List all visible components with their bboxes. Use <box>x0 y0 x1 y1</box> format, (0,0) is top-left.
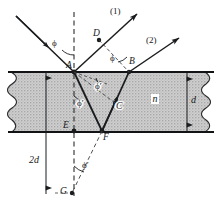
point-F-label: F <box>103 133 109 143</box>
point-E-marker <box>72 129 77 134</box>
angle-phi-prime-below-label: ϕ′ <box>82 161 89 170</box>
arc-phi-at-B <box>118 57 127 62</box>
point-E-label: E <box>63 121 69 131</box>
point-C-label: C <box>116 102 122 112</box>
slab-interior <box>8 72 211 132</box>
angle-phi-prime-upper-label: ϕ′ <box>95 82 102 91</box>
thickness-2d-label: 2d <box>29 155 39 165</box>
point-G-label: G <box>60 187 67 197</box>
point-D-label: D <box>93 29 100 39</box>
slab-left-break-edge <box>8 72 17 132</box>
angle-phi-incident-label: ϕ <box>52 39 57 48</box>
refractive-index-label: n <box>151 94 159 104</box>
slab-body <box>8 72 215 132</box>
point-A-label: A <box>66 61 72 71</box>
optics-ray-diagram: (1) (2) ϕ ϕ ϕ′ ϕ′ ϕ′ A D B C E F G n d 2… <box>0 0 223 210</box>
point-B-label: B <box>129 57 135 67</box>
ray-1-line <box>74 14 137 72</box>
diagram-canvas <box>0 0 223 210</box>
angle-phi-at-B-label: ϕ <box>110 54 115 63</box>
reflected-ray-1 <box>74 14 137 72</box>
point-G-marker <box>70 191 74 195</box>
arc-phi-incident <box>62 50 74 55</box>
ray-1-label: (1) <box>110 7 121 16</box>
ray-2-label: (2) <box>146 36 157 45</box>
incident-ray-arrow <box>16 16 47 46</box>
thickness-d-label: d <box>191 95 196 105</box>
angle-phi-prime-normal-label: ϕ′ <box>77 99 84 108</box>
